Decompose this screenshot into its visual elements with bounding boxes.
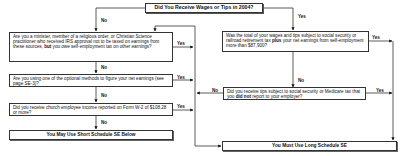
tips-yes-label: Yes xyxy=(376,88,384,93)
question-unreported-tips: Did you receive tips subject to social s… xyxy=(223,87,366,100)
question-wages-total: Was the total of your wages and tips sub… xyxy=(222,31,369,52)
title-text: Did You Receive Wages or Tips in 2004? xyxy=(155,4,254,10)
question-optional-methods: Are you using one of the optional method… xyxy=(9,74,173,87)
wages-yes-label: Yes xyxy=(372,35,380,40)
emphasis-plus: plus xyxy=(272,38,281,43)
church-no-label: No xyxy=(101,120,107,125)
optional-yes-label: Yes xyxy=(177,75,185,80)
question-church-income: Did you receive church employee income r… xyxy=(9,103,173,116)
result-short-schedule-se: You May Use Short Schedule SE Below xyxy=(9,130,173,140)
minister-yes-label: Yes xyxy=(177,41,185,46)
church-yes-label: Yes xyxy=(177,104,185,109)
tips-no-label: No xyxy=(212,88,218,93)
right-branch-label: Yes xyxy=(298,14,306,19)
emphasis-did-not: did not xyxy=(236,94,251,99)
result-long-schedule-se: You Must Use Long Schedule SE xyxy=(222,141,397,151)
minister-no-label: No xyxy=(101,65,107,70)
title-box: Did You Receive Wages or Tips in 2004? xyxy=(145,3,263,13)
question-minister: Are you a minister, member of a religiou… xyxy=(9,32,173,62)
left-branch-label: No xyxy=(101,18,107,23)
wages-no-label: No xyxy=(298,78,304,83)
optional-no-label: No xyxy=(101,93,107,98)
